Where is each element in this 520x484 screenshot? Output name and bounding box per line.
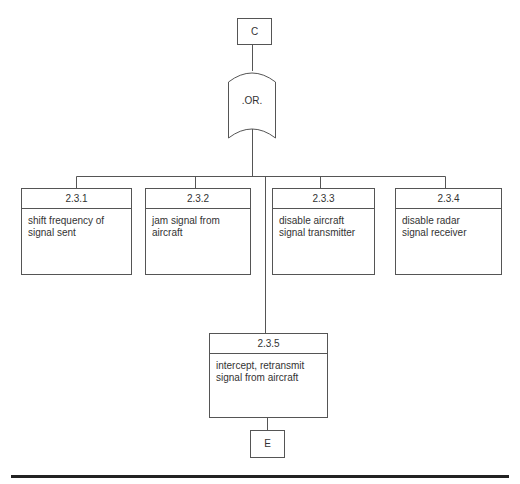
connector-c: C <box>237 18 272 45</box>
event-id: 2.3.3 <box>273 189 374 209</box>
connector-e: E <box>250 430 285 458</box>
event-description: intercept, retransmit signal from aircra… <box>210 354 327 384</box>
event-box-2-3-1: 2.3.1 shift frequency of signal sent <box>21 188 132 275</box>
or-gate-label: .OR. <box>228 95 276 106</box>
event-id: 2.3.2 <box>146 189 250 209</box>
event-description: disable aircraft signal transmitter <box>273 209 374 239</box>
event-id: 2.3.5 <box>210 334 327 354</box>
event-box-2-3-4: 2.3.4 disable radar signal receiver <box>395 188 502 275</box>
event-description: disable radar signal receiver <box>396 209 501 239</box>
event-box-2-3-2: 2.3.2 jam signal from aircraft <box>145 188 251 275</box>
page-divider-rule <box>11 475 509 478</box>
connector-e-label: E <box>264 438 271 449</box>
event-id: 2.3.4 <box>396 189 501 209</box>
event-id: 2.3.1 <box>22 189 131 209</box>
fault-tree-diagram: C .OR. 2.3.1 shift frequency of signal s… <box>0 0 520 484</box>
connector-c-label: C <box>251 26 258 37</box>
event-box-2-3-5: 2.3.5 intercept, retransmit signal from … <box>209 333 328 418</box>
event-box-2-3-3: 2.3.3 disable aircraft signal transmitte… <box>272 188 375 275</box>
event-description: jam signal from aircraft <box>146 209 250 239</box>
event-description: shift frequency of signal sent <box>22 209 131 239</box>
